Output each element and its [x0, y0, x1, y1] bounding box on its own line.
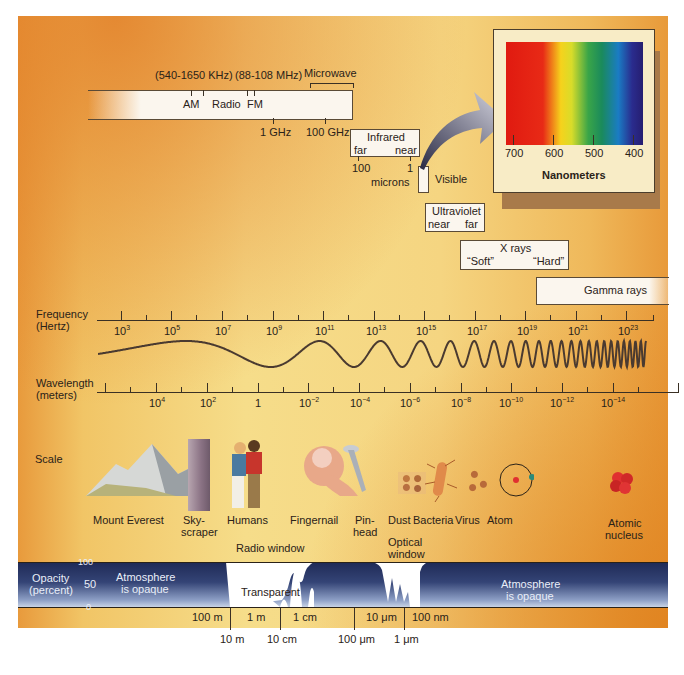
- 100ghz-label: 100 GHz: [306, 127, 349, 138]
- gamma-label: Gamma rays: [584, 285, 647, 296]
- fm-frequency-range: (88-108 MHz): [235, 70, 302, 81]
- opaque-right-label: Atmosphere: [501, 579, 560, 590]
- opacity-tick-100: 100: [78, 558, 93, 567]
- optical-window-label: Optical: [388, 537, 422, 548]
- frequency-axis-line: [97, 320, 654, 321]
- ir-100-label: 100: [352, 163, 370, 174]
- am-tick: [191, 90, 192, 96]
- scale-item-pinhead: Pin-: [355, 515, 375, 526]
- microwave-label: Microwave: [304, 68, 357, 79]
- opacity-tick-0: 0: [86, 603, 91, 612]
- transparent-label: Transparent: [241, 587, 300, 598]
- visible-spectrum-gradient: [506, 42, 643, 145]
- am-label: AM: [183, 99, 200, 110]
- bacteria-icon: [425, 456, 457, 502]
- infrared-near: near: [395, 145, 417, 156]
- nm-tick-600: [553, 135, 554, 145]
- opacity-label: Opacity: [32, 573, 69, 584]
- xray-label: X rays: [500, 243, 531, 254]
- window-label-10cm: 10 cm: [267, 634, 297, 645]
- window-label-100nm: 100 nm: [412, 612, 449, 623]
- wl-tick-label: 10−4: [350, 398, 370, 409]
- nm-tick-700: [513, 135, 514, 145]
- window-label-1um: 1 μm: [394, 634, 419, 645]
- wl-tick-label: 10−8: [451, 398, 471, 409]
- wavelength-axis-label: Wavelength: [36, 378, 94, 389]
- am-tick: [203, 90, 204, 96]
- scale-item-bacteria: Bacteria: [413, 515, 453, 526]
- em-spectrum-diagram: (540-1650 KHz) (88-108 MHz) Microwave AM…: [18, 16, 668, 628]
- wavelength-axis-unit: (meters): [36, 390, 77, 401]
- radio-window-label: Radio window: [236, 543, 304, 554]
- microwave-brace: [310, 83, 354, 88]
- xray-soft: “Soft”: [467, 256, 494, 267]
- wl-tick-label: 1: [255, 398, 261, 409]
- ultraviolet-label: Ultraviolet: [432, 206, 481, 217]
- wl-tick-label: 102: [200, 398, 216, 409]
- dust-icon: [398, 472, 426, 494]
- window-label-1cm: 1 cm: [293, 612, 317, 623]
- window-label-10m: 10 m: [220, 634, 244, 645]
- ir-1-label: 1: [407, 163, 413, 174]
- atom-icon: [498, 462, 534, 498]
- ir-1-tick: [410, 156, 411, 161]
- atmospheric-windows: [18, 562, 668, 607]
- opacity-unit: (percent): [29, 585, 73, 596]
- ir-100-tick: [358, 156, 359, 161]
- 100ghz-tick: [325, 118, 326, 124]
- scale-item-dust: Dust: [388, 515, 411, 526]
- wl-tick-label: 10−6: [400, 398, 420, 409]
- opaque-right-label-2: is opaque: [506, 591, 554, 602]
- visible-label: Visible: [435, 174, 467, 185]
- wl-tick-label: 104: [149, 398, 165, 409]
- scale-item-atomic-nucleus: Atomic: [608, 518, 642, 529]
- nm-tick-400: [633, 135, 634, 145]
- atomic-nucleus-icon: [608, 470, 636, 496]
- scale-item-virus: Virus: [455, 515, 480, 526]
- uv-near: near: [428, 219, 450, 230]
- 1ghz-label: 1 GHz: [260, 127, 291, 138]
- infrared-far: far: [354, 145, 367, 156]
- fm-tick: [254, 90, 255, 96]
- skyscraper-icon: [188, 439, 210, 511]
- scale-label: Scale: [35, 454, 63, 465]
- window-label-10um: 10 μm: [366, 612, 397, 623]
- nm-label-700: 700: [505, 148, 523, 159]
- scale-item-humans: Humans: [227, 515, 268, 526]
- scale-item-atom: Atom: [487, 515, 513, 526]
- 1ghz-tick: [273, 118, 274, 124]
- microns-label: microns: [371, 177, 410, 188]
- optical-window-label-2: window: [388, 549, 425, 560]
- fm-tick: [247, 90, 248, 96]
- wl-tick-label: 10−2: [299, 398, 319, 409]
- am-frequency-range: (540-1650 KHz): [155, 70, 233, 81]
- uv-far: far: [465, 219, 478, 230]
- window-label-1m: 1 m: [247, 612, 265, 623]
- wl-tick-label: 10−12: [550, 398, 574, 409]
- opaque-left-label-2: is opaque: [121, 584, 169, 595]
- scale-item-atomic-nucleus-2: nucleus: [605, 530, 643, 541]
- radio-label: Radio: [212, 99, 241, 110]
- scale-item-fingernail: Fingernail: [290, 515, 338, 526]
- pinhead-icon: [342, 444, 368, 494]
- infrared-label: Infrared: [367, 132, 405, 143]
- window-label-100m: 100 m: [192, 612, 223, 623]
- opaque-left-label: Atmosphere: [116, 572, 175, 583]
- scale-item-mount-everest: Mount Everest: [93, 515, 164, 526]
- fm-label: FM: [247, 99, 263, 110]
- scale-item-skyscraper-2: scraper: [181, 527, 218, 538]
- scale-item-skyscraper: Sky-: [183, 515, 205, 526]
- frequency-axis-label: Frequency: [36, 309, 88, 320]
- wl-tick-label: 10−14: [601, 398, 625, 409]
- virus-icon: [469, 470, 487, 492]
- nm-tick-500: [593, 135, 594, 145]
- humans-icon: [226, 440, 272, 510]
- opacity-bottom-line: [18, 607, 668, 608]
- opacity-tick-50: 50: [84, 579, 96, 590]
- wl-tick-label: 10−10: [499, 398, 523, 409]
- window-label-100um: 100 μm: [338, 634, 375, 645]
- wavelength-axis-line: [97, 392, 679, 393]
- frequency-axis-unit: (Hertz): [36, 321, 70, 332]
- nm-label-400: 400: [625, 148, 643, 159]
- nm-label-600: 600: [545, 148, 563, 159]
